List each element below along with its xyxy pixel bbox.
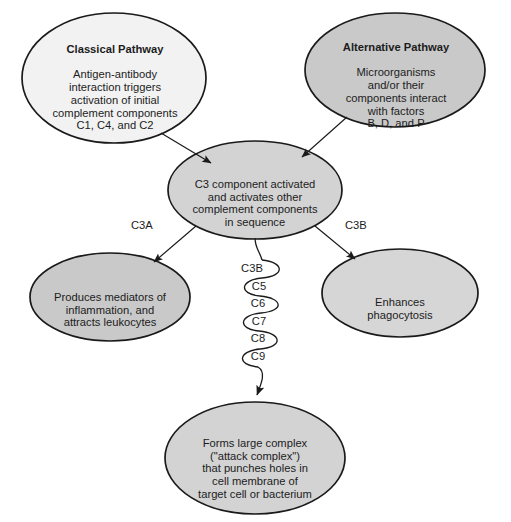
chain-label-c6: C6	[242, 297, 274, 309]
complement-pathway-diagram: Classical Pathway Antigen-antibody inter…	[0, 0, 511, 522]
node-c3-component	[168, 141, 342, 239]
arrow-alternative-to-c3	[302, 117, 347, 157]
arrow-c3a-to-mediators	[154, 226, 196, 262]
node-attack-complex	[165, 402, 345, 514]
edge-label-c3b: C3B	[345, 219, 367, 231]
diagram-canvas	[0, 0, 511, 522]
node-enhances-phagocytosis	[322, 249, 478, 337]
edge-label-c3a: C3A	[131, 219, 153, 231]
chain-label-c9: C9	[242, 350, 274, 362]
node-alternative-pathway	[305, 13, 485, 127]
chain-label-c5: C5	[243, 280, 275, 292]
chain-label-c3b: C3B	[236, 262, 268, 274]
chain-label-c8: C8	[242, 332, 274, 344]
chain-stem	[255, 238, 262, 260]
arrow-chain-to-attack-complex	[257, 367, 263, 395]
node-produces-mediators	[30, 253, 190, 341]
chain-label-c7: C7	[243, 315, 275, 327]
node-classical-pathway	[22, 13, 206, 143]
arrow-classical-to-c3	[161, 133, 211, 163]
